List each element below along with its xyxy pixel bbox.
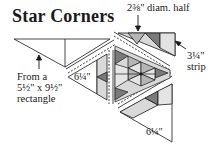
star-corners-diagram (0, 0, 220, 152)
arrow-diagonal-icon (175, 41, 186, 49)
arrow-down-icon (136, 15, 141, 31)
arrow-up-icon (37, 55, 42, 69)
left-triangle-size-label: 6¼" (74, 71, 91, 82)
bottom-triangle-size-label: 6¼" (146, 126, 163, 137)
